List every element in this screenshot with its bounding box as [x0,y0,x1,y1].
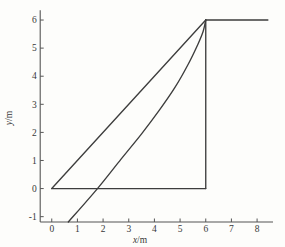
y-tick-label: 6 [32,15,37,25]
x-tick-label: 1 [75,224,80,234]
x-tick-label: 0 [49,224,54,234]
y-tick-label: 4 [32,71,37,81]
trajectory-plot-figure: 012345678-10123456x/my/m [0,0,285,247]
xy-line-chart: 012345678-10123456x/my/m [0,0,285,247]
y-axis-label: y/m [4,110,14,126]
x-tick-label: 8 [255,224,260,234]
diagonal-line-path [52,20,206,189]
x-tick-label: 7 [229,224,234,234]
x-tick-label: 6 [203,224,208,234]
x-axis-label: x/m [132,235,148,245]
y-tick-label: -1 [29,212,37,222]
curved-trajectory-path [68,20,205,222]
x-tick-label: 2 [101,224,106,234]
y-tick-label: 5 [32,43,37,53]
y-tick-label: 0 [32,184,37,194]
y-tick-label: 2 [32,128,37,138]
x-tick-label: 3 [126,224,131,234]
x-tick-label: 5 [178,224,183,234]
y-tick-label: 1 [32,156,37,166]
y-tick-label: 3 [32,100,37,110]
x-tick-label: 4 [152,224,157,234]
